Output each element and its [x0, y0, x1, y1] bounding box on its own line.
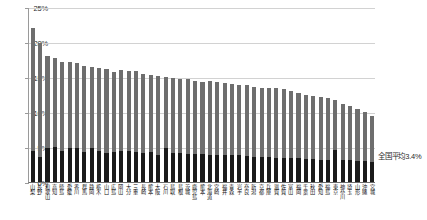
x-axis-tick-label: 和歌山 [43, 184, 50, 220]
bar-column [260, 88, 264, 183]
bar-segment-lower [156, 155, 160, 182]
bar-segment-upper [164, 77, 168, 148]
bar-segment-upper [208, 81, 212, 155]
x-axis-tick-label: 沖縄 [360, 184, 367, 220]
bar-segment-lower [333, 150, 337, 182]
bar-segment-upper [31, 28, 35, 151]
bar-segment-upper [104, 69, 108, 152]
x-axis-tick-label: 岩手 [235, 184, 242, 220]
x-axis-tick-label: 東京 [331, 184, 338, 220]
bar-column [363, 112, 367, 182]
bar-segment-upper [141, 74, 145, 152]
bar-segment-lower [149, 152, 153, 182]
bar-segment-upper [341, 104, 345, 161]
bar-segment-upper [230, 84, 234, 155]
x-axis-tick-label: 岡山 [117, 184, 124, 220]
x-axis-tick-label: 千葉 [301, 184, 308, 220]
bar-segment-lower [82, 152, 86, 182]
bar-column [215, 82, 219, 182]
x-axis-tick-label: 福岡 [294, 184, 301, 220]
bar-column [370, 116, 374, 183]
x-axis-tick-label: 鹿児島 [190, 184, 197, 220]
bar-column [274, 88, 278, 182]
x-axis-tick-label: 滋賀 [272, 184, 279, 220]
bar-segment-upper [252, 87, 256, 157]
bar-segment-lower [127, 151, 131, 182]
bar-segment-lower [363, 161, 367, 182]
bar-segment-upper [245, 85, 249, 156]
x-axis-tick-label: 高知 [50, 184, 57, 220]
bar-segment-lower [38, 157, 42, 182]
bar-segment-lower [178, 153, 182, 182]
bar-segment-upper [274, 88, 278, 157]
bar-segment-upper [319, 97, 323, 159]
bar-segment-upper [90, 67, 94, 149]
x-axis-tick-label: 新潟 [249, 184, 256, 220]
bar-segment-upper [112, 72, 116, 152]
bar-segment-lower [200, 154, 204, 182]
bar-column [245, 85, 249, 182]
bar-chart: 0%5%10%15%20%25% 全国平均3.4% 山梨長野和歌山高知徳島愛媛香… [0, 0, 427, 220]
bar-segment-upper [68, 62, 72, 148]
x-axis-tick-label: 福島 [323, 184, 330, 220]
bar-segment-upper [289, 91, 293, 158]
x-axis-tick-label: 山口 [102, 184, 109, 220]
bar-segment-lower [193, 154, 197, 182]
bar-segment-lower [164, 148, 168, 182]
bar-column [296, 93, 300, 182]
bar-column [230, 84, 234, 182]
bar-column [348, 106, 352, 182]
x-axis-tick-label: 広島 [109, 184, 116, 220]
x-axis-tick-label: 徳島 [58, 184, 65, 220]
bar-column [252, 87, 256, 182]
bar-segment-upper [355, 109, 359, 161]
x-axis-tick-label: 愛知 [316, 184, 323, 220]
bar-segment-upper [311, 96, 315, 159]
bar-column [104, 69, 108, 182]
bar-column [45, 56, 49, 182]
bar-segment-lower [68, 148, 72, 182]
bar-segment-upper [296, 93, 300, 158]
x-axis-tick-label: 佐賀 [279, 184, 286, 220]
bar-column [127, 71, 131, 182]
bar-segment-upper [186, 79, 190, 154]
bar-column [178, 79, 182, 182]
bar-segment-upper [333, 100, 337, 150]
bar-column [82, 66, 86, 182]
x-axis-tick-label: 神奈川 [338, 184, 345, 220]
national-average-annotation: 全国平均3.4% [378, 150, 422, 161]
x-axis-tick-label: 福井 [220, 184, 227, 220]
bar-segment-lower [348, 160, 352, 182]
plot-area [28, 8, 375, 183]
x-axis-tick-label: 香川 [72, 184, 79, 220]
bar-column [164, 77, 168, 182]
bar-segment-lower [171, 153, 175, 182]
bar-column [53, 58, 57, 182]
x-axis-tick-label: 愛媛 [65, 184, 72, 220]
x-axis-tick-label: 栃木 [94, 184, 101, 220]
bar-column [319, 97, 323, 182]
bar-segment-lower [260, 157, 264, 182]
bar-segment-lower [53, 147, 57, 182]
x-axis-tick-label: 茨城 [183, 184, 190, 220]
bar-segment-lower [141, 153, 145, 182]
bar-column [237, 85, 241, 182]
bar-segment-upper [223, 83, 227, 155]
bar-segment-lower [296, 158, 300, 182]
bar-column [90, 67, 94, 183]
bar-column [119, 70, 123, 182]
bar-segment-upper [267, 88, 271, 157]
bar-segment-upper [304, 95, 308, 159]
bar-column [355, 109, 359, 182]
bar-segment-lower [289, 158, 293, 182]
x-axis-tick-label: 長野 [35, 184, 42, 220]
bar-segment-lower [341, 160, 345, 182]
bar-column [341, 104, 345, 182]
bar-segment-upper [97, 68, 101, 151]
x-axis-tick-label: 青森 [227, 184, 234, 220]
x-axis-tick-label: 三重 [131, 184, 138, 220]
bar-segment-upper [370, 116, 374, 162]
bar-segment-upper [156, 76, 160, 155]
bar-column [200, 82, 204, 182]
bar-segment-upper [326, 98, 330, 160]
